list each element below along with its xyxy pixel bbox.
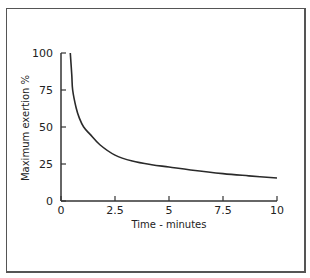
- y-tick-label: 0: [46, 195, 53, 208]
- y-tick-label: 75: [39, 84, 53, 97]
- x-tick-label: 2.5: [106, 204, 124, 217]
- x-tick-label: 5: [166, 204, 173, 217]
- axes: 025507510002.557.510: [32, 47, 284, 217]
- x-tick-label: 10: [270, 204, 284, 217]
- y-tick-label: 25: [39, 158, 53, 171]
- y-tick-label: 50: [39, 121, 53, 134]
- x-tick-label: 0: [58, 204, 65, 217]
- chart: 025507510002.557.510 Time - minutes Maxi…: [0, 0, 310, 278]
- exertion-curve: [70, 53, 277, 178]
- x-tick-label: 7.5: [214, 204, 232, 217]
- y-axis-title: Maximum exertion %: [20, 75, 31, 181]
- y-tick-label: 100: [32, 47, 53, 60]
- x-axis-title: Time - minutes: [131, 219, 207, 230]
